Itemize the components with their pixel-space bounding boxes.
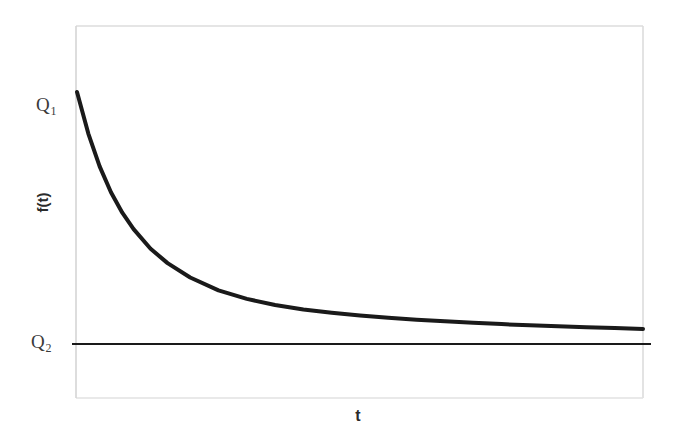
y-axis-title: f(t) — [35, 179, 50, 227]
x-axis-title: t — [340, 408, 376, 424]
y-tick-label-q1: Q1 — [36, 95, 56, 114]
q1-base-text: Q — [36, 94, 50, 115]
plot-canvas — [0, 0, 674, 447]
chart-figure: Q1 Q2 f(t) t — [0, 0, 674, 447]
q2-subscript: 2 — [45, 341, 51, 355]
plot-frame — [76, 26, 643, 398]
y-tick-label-q2: Q2 — [31, 332, 51, 351]
q1-subscript: 1 — [50, 104, 56, 118]
q2-base-text: Q — [31, 331, 45, 352]
decay-curve — [77, 92, 643, 329]
